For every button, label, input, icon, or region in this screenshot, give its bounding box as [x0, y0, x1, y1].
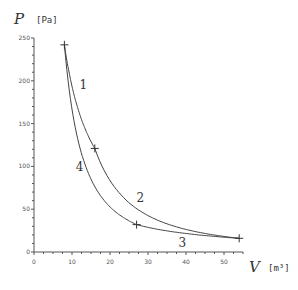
tick-labels: 01020304050050100150200250 — [19, 34, 228, 265]
y-tick-label: 50 — [22, 205, 30, 212]
point-marker — [91, 144, 99, 152]
x-tick-label: 0 — [32, 258, 36, 265]
x-axis-unit: [m³] — [268, 263, 290, 273]
point-marker — [133, 221, 141, 229]
y-tick-label: 100 — [19, 162, 31, 169]
curve-1 — [64, 45, 94, 149]
y-tick-label: 0 — [26, 248, 30, 255]
point-markers — [60, 41, 243, 242]
point-marker — [235, 234, 243, 242]
x-tick-label: 40 — [182, 258, 190, 265]
y-tick-label: 150 — [19, 120, 31, 127]
x-tick-label: 20 — [106, 258, 114, 265]
y-axis-label: P — [13, 10, 25, 28]
y-tick-label: 250 — [19, 34, 31, 41]
curves — [64, 45, 239, 239]
point-marker — [60, 41, 68, 49]
curve-label-4: 4 — [76, 160, 84, 174]
x-tick-label: 30 — [144, 258, 152, 265]
x-tick-label: 50 — [220, 258, 228, 265]
x-axis-label: V — [249, 258, 262, 276]
curve-label-3: 3 — [178, 236, 186, 250]
curve-label-1: 1 — [80, 78, 88, 92]
curve-label-2: 2 — [137, 191, 145, 205]
curve-labels: 1234 — [76, 78, 186, 250]
pv-diagram: 01020304050050100150200250 1234 P [Pa] V… — [0, 0, 298, 290]
y-axis-unit: [Pa] — [36, 15, 58, 25]
curve-2 — [95, 148, 239, 238]
y-tick-label: 200 — [19, 77, 31, 84]
x-tick-label: 10 — [68, 258, 76, 265]
curve-4 — [64, 45, 136, 225]
